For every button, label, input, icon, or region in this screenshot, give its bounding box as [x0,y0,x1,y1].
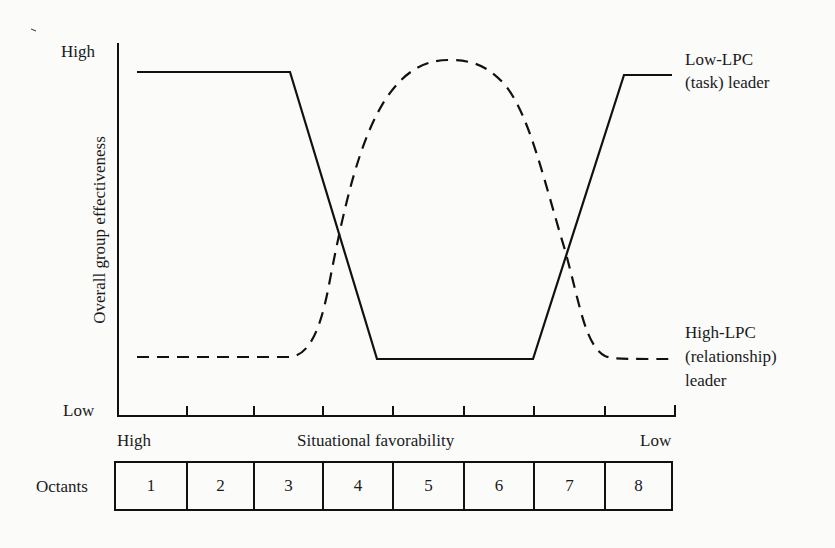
octant-5: 5 [393,462,464,510]
y-axis-title: Overall group effectiveness [90,136,110,324]
low-lpc-label-1: Low-LPC [685,49,753,70]
y-high-label: High [61,41,95,62]
high-lpc-label-1: High-LPC [685,322,756,343]
octant-3: 3 [254,462,323,510]
stray-mark [31,29,36,31]
octant-4: 4 [323,462,393,510]
low-lpc-line [137,72,672,359]
octant-2: 2 [187,462,254,510]
octants-label: Octants [36,476,88,497]
octant-1: 1 [115,462,187,510]
x-axis-title: Situational favorability [297,430,454,451]
y-low-label: Low [63,400,94,421]
high-lpc-line [137,60,672,359]
x-high-label: High [117,430,151,451]
low-lpc-label-2: (task) leader [685,72,769,93]
x-axis-ticks [187,405,675,416]
octant-8: 8 [605,462,672,510]
octant-6: 6 [464,462,534,510]
high-lpc-label-3: leader [685,370,727,391]
x-low-label: Low [640,430,671,451]
octant-7: 7 [534,462,605,510]
high-lpc-label-2: (relationship) [685,346,777,367]
